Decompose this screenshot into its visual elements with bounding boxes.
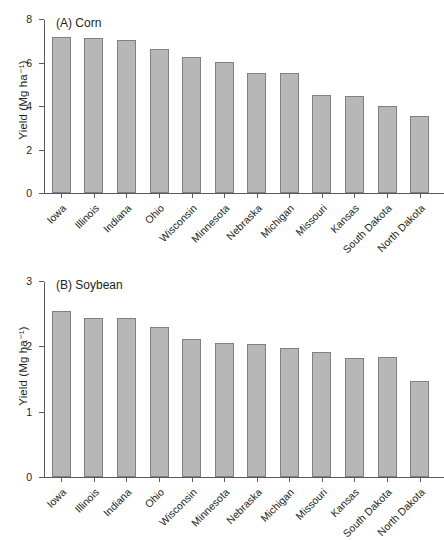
bar[interactable] [280,73,299,193]
x-axis-label: Ohio [143,203,167,227]
bar[interactable] [378,357,397,477]
x-tick [143,478,176,482]
y-tick-label-a: 4 [26,101,32,112]
bar-slot [45,20,78,193]
x-tick [45,194,78,198]
x-tick [403,194,436,198]
bar[interactable] [312,95,331,193]
y-tick-a: 6 [39,63,44,64]
bar[interactable] [345,96,364,193]
plot-area-b: (B) Soybean 0123 IowaIllinoisIndianaOhio… [44,282,436,478]
y-tick-a: 2 [39,150,44,151]
bar[interactable] [84,318,103,477]
bar[interactable] [215,62,234,193]
x-tick [208,194,241,198]
x-axis-labels-b: IowaIllinoisIndianaOhioWisconsinMinnesot… [45,483,436,541]
bar-slot [403,20,436,193]
bar[interactable] [84,38,103,193]
y-tick-label-b: 2 [26,341,32,352]
x-label-slot: North Dakota [403,199,436,259]
x-axis-label: Illinois [73,487,102,516]
x-tick [273,194,306,198]
bar-slot [175,282,208,477]
bar[interactable] [117,40,136,193]
bar[interactable] [215,343,234,477]
bar[interactable] [345,358,364,477]
bar-slot [338,20,371,193]
y-tick-a: 4 [39,106,44,107]
bar-slot [78,282,111,477]
x-tick [78,194,111,198]
bar-slot [175,20,208,193]
bar-slot [306,20,339,193]
bar[interactable] [280,348,299,477]
bar-slot [371,282,404,477]
bar[interactable] [150,49,169,193]
x-tick [143,194,176,198]
bar[interactable] [378,106,397,193]
x-axis-label: Iowa [45,487,69,511]
bar-slot [338,282,371,477]
x-label-slot: Iowa [45,483,78,541]
bar[interactable] [182,57,201,193]
x-tick [78,478,111,482]
bar-slot [273,20,306,193]
x-tick [306,194,339,198]
bar[interactable] [312,352,331,477]
x-tick [273,478,306,482]
x-tick [208,478,241,482]
x-tick [371,478,404,482]
bar[interactable] [52,311,71,477]
bar[interactable] [247,344,266,477]
x-tick [371,194,404,198]
y-tick-b: 2 [39,346,44,347]
plot-area-a: (A) Corn 02468 IowaIllinoisIndianaOhioWi… [44,20,436,194]
bar-slot [240,282,273,477]
y-tick-a: 8 [39,19,44,20]
bar[interactable] [410,381,429,477]
bar-slot [208,282,241,477]
bar-slot [143,282,176,477]
bar-slot [110,20,143,193]
x-tick [240,194,273,198]
bar-group-b [45,282,436,477]
bar-slot [143,20,176,193]
bar[interactable] [52,37,71,193]
x-axis-label: Iowa [45,203,69,227]
x-tick [338,194,371,198]
y-tick-label-a: 6 [26,57,32,68]
x-tick [240,478,273,482]
x-ticks-b [45,478,436,482]
bar[interactable] [182,339,201,477]
x-label-slot: North Dakota [403,483,436,541]
bar-slot [45,282,78,477]
x-ticks-a [45,194,436,198]
x-label-slot: Indiana [110,199,143,259]
y-tick-label-a: 2 [26,144,32,155]
y-tick-a: 0 [39,193,44,194]
bar[interactable] [410,116,429,193]
x-axis-labels-a: IowaIllinoisIndianaOhioWisconsinMinnesot… [45,199,436,259]
bar[interactable] [150,327,169,477]
chart-panel-a: Yield (Mg ha⁻¹) (A) Corn 02468 IowaIllin… [0,0,442,265]
x-tick [338,478,371,482]
y-tick-b: 3 [39,281,44,282]
x-tick [175,194,208,198]
x-tick [110,194,143,198]
bar-slot [273,282,306,477]
y-tick-b: 0 [39,477,44,478]
x-tick [175,478,208,482]
y-tick-label-b: 0 [26,472,32,483]
y-tick-label-a: 8 [26,14,32,25]
bar-slot [306,282,339,477]
x-axis-label: Illinois [73,203,102,232]
bar[interactable] [117,318,136,477]
y-tick-label-a: 0 [26,188,32,199]
y-tick-label-b: 1 [26,406,32,417]
bar[interactable] [247,73,266,193]
bar-slot [208,20,241,193]
bar-group-a [45,20,436,193]
bar-slot [403,282,436,477]
bar-slot [78,20,111,193]
